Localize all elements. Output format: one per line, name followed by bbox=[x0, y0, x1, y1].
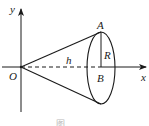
origin-label: O bbox=[9, 70, 17, 82]
origin-point bbox=[20, 66, 22, 68]
y-axis-label: y bbox=[9, 3, 15, 15]
radius-label: R bbox=[103, 49, 111, 61]
point-b-label: B bbox=[97, 72, 104, 84]
figure-caption: 图 bbox=[56, 119, 65, 126]
point-a-label: A bbox=[96, 19, 104, 31]
x-axis-label: x bbox=[140, 71, 146, 83]
height-label: h bbox=[66, 54, 72, 66]
cone-diagram: y A R h O B x 图 bbox=[0, 0, 149, 126]
